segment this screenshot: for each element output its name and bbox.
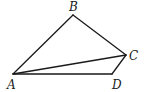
edge-cd <box>112 55 126 74</box>
vertex-label-c: C <box>129 49 138 63</box>
vertex-label-a: A <box>6 78 16 92</box>
edge-bc <box>73 15 126 55</box>
geometry-diagram: A B C D <box>0 0 146 92</box>
vertex-label-b: B <box>68 0 78 14</box>
quadrilateral-abcd: A B C D <box>0 0 146 92</box>
vertex-label-d: D <box>111 78 122 92</box>
